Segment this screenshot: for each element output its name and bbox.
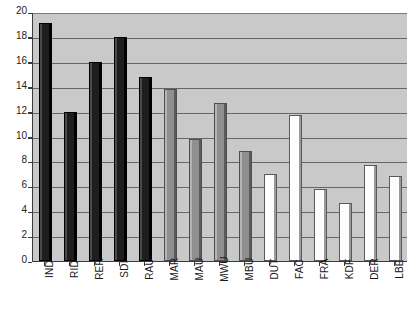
- bar-shadow: [149, 78, 151, 260]
- bar-body: [139, 77, 152, 261]
- bar-mar: [164, 89, 177, 261]
- plot-area: [32, 13, 407, 262]
- bar-fra: [314, 189, 327, 261]
- x-axis-tick: SDI: [107, 262, 132, 315]
- y-tick-label: 10: [16, 131, 27, 141]
- bar-highlight: [190, 140, 192, 260]
- x-tick-label: IND: [45, 260, 55, 278]
- y-tick-label: 14: [16, 81, 27, 91]
- y-tick-label: 18: [16, 31, 27, 41]
- bar-highlight: [265, 175, 267, 260]
- y-axis: 02468101214161820: [0, 13, 32, 262]
- bar-body: [64, 112, 77, 261]
- bar-shadow: [274, 175, 276, 260]
- bar-highlight: [365, 166, 367, 260]
- bar-body: [39, 23, 52, 261]
- x-tick-label: SDI: [120, 260, 130, 277]
- x-axis-tick: RAU: [132, 262, 157, 315]
- bar-dut: [264, 174, 277, 261]
- x-tick-label: KDF: [345, 259, 355, 280]
- y-tick-label: 4: [21, 205, 27, 215]
- y-tick-label: 0: [21, 255, 27, 265]
- bar-kdf: [339, 203, 352, 262]
- bar-highlight: [165, 90, 167, 260]
- bars-layer: [33, 13, 407, 261]
- x-tick-label: MWU: [220, 256, 230, 282]
- bar-highlight: [240, 152, 242, 260]
- x-axis-tick: RID: [57, 262, 82, 315]
- bar-shadow: [124, 38, 126, 260]
- bar-mwu: [214, 103, 227, 261]
- bar-body: [264, 174, 277, 261]
- bar-der: [364, 165, 377, 261]
- x-tick-label: DUT: [270, 258, 280, 279]
- bar-highlight: [90, 63, 92, 260]
- bar-shadow: [49, 24, 51, 260]
- bar-highlight: [65, 113, 67, 260]
- bar-shadow: [299, 116, 301, 260]
- x-tick-label: FAC: [295, 259, 305, 279]
- bar-highlight: [315, 190, 317, 260]
- y-tick-label: 20: [16, 6, 27, 16]
- bar-highlight: [140, 78, 142, 260]
- bar-mau: [189, 139, 202, 261]
- bar-shadow: [349, 204, 351, 261]
- x-axis: INDRIDRERSDIRAUMARMAUMWUMBUDUTFACFRAKDFD…: [32, 262, 407, 315]
- x-axis-tick: DER: [357, 262, 382, 315]
- y-tick-label: 16: [16, 56, 27, 66]
- bar-shadow: [224, 104, 226, 260]
- x-axis-tick: FRA: [307, 262, 332, 315]
- x-axis-tick: MWU: [207, 262, 232, 315]
- x-tick-label: DER: [370, 258, 380, 280]
- y-tick-label: 8: [21, 155, 27, 165]
- x-tick-label: MAR: [170, 258, 180, 281]
- bar-body: [339, 203, 352, 262]
- bar-mbu: [239, 151, 252, 261]
- bar-ind: [39, 23, 52, 261]
- bar-body: [239, 151, 252, 261]
- bar-lbe: [389, 176, 402, 261]
- bar-shadow: [174, 90, 176, 260]
- x-tick-label: RAU: [145, 258, 155, 280]
- bar-body: [289, 115, 302, 261]
- bar-highlight: [215, 104, 217, 260]
- bar-highlight: [390, 177, 392, 260]
- x-axis-tick: MAR: [157, 262, 182, 315]
- bar-sdi: [114, 37, 127, 261]
- bar-body: [114, 37, 127, 261]
- bar-highlight: [40, 24, 42, 260]
- x-axis-tick: IND: [32, 262, 57, 315]
- bar-shadow: [99, 63, 101, 260]
- x-tick-label: RID: [70, 260, 80, 278]
- x-axis-tick: DUT: [257, 262, 282, 315]
- x-tick-label: FRA: [320, 259, 330, 280]
- x-tick-label: LBE: [395, 259, 405, 279]
- bar-rer: [89, 62, 102, 261]
- x-tick-label: RER: [95, 258, 105, 280]
- y-tick-label: 2: [21, 230, 27, 240]
- bar-highlight: [340, 204, 342, 261]
- x-tick-label: MBU: [245, 258, 255, 281]
- x-axis-tick: MBU: [232, 262, 257, 315]
- x-tick-label: MAU: [195, 258, 205, 281]
- bar-body: [214, 103, 227, 261]
- x-axis-tick: MAU: [182, 262, 207, 315]
- bar-shadow: [374, 166, 376, 260]
- bar-fac: [289, 115, 302, 261]
- x-axis-tick: RER: [82, 262, 107, 315]
- bar-highlight: [290, 116, 292, 260]
- bar-shadow: [399, 177, 401, 260]
- bar-body: [314, 189, 327, 261]
- bar-body: [364, 165, 377, 261]
- bar-shadow: [249, 152, 251, 260]
- bar-shadow: [74, 113, 76, 260]
- bar-rau: [139, 77, 152, 261]
- bar-body: [89, 62, 102, 261]
- bar-body: [389, 176, 402, 261]
- bar-shadow: [199, 140, 201, 260]
- bar-chart: 02468101214161820 INDRIDRERSDIRAUMARMAUM…: [0, 0, 419, 315]
- bar-rid: [64, 112, 77, 261]
- x-axis-tick: FAC: [282, 262, 307, 315]
- bar-body: [189, 139, 202, 261]
- y-tick-label: 6: [21, 180, 27, 190]
